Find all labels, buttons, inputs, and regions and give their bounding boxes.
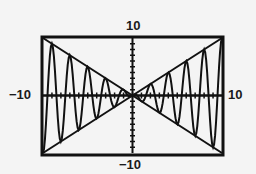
graph-window (0, 0, 256, 174)
